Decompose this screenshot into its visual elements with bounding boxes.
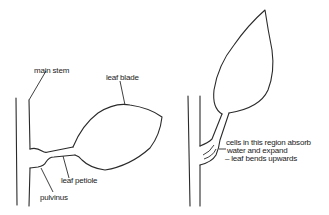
right-leaf-blade-outline [214, 10, 273, 114]
main-stem-inner-edge-bottom [29, 168, 30, 206]
diagram-canvas [0, 0, 329, 215]
leaf-petiole-leader-line [63, 156, 69, 178]
left-plant-drawing [16, 71, 162, 206]
right-petiole-upper-edge [200, 114, 222, 146]
right-plant-drawing [188, 10, 273, 206]
right-main-stem-outer-edge [188, 96, 190, 206]
pulvinus-expansion-line-1 [203, 145, 214, 155]
main-stem-outer-edge [16, 98, 17, 205]
annotation-line-3: – leaf bends upwards [225, 154, 297, 163]
leaf-blade-leader-line [120, 81, 125, 105]
petiole-upper-outline [30, 147, 73, 152]
pulvinus-leader-line [41, 168, 53, 192]
leaf-blade-outline [73, 104, 162, 170]
label-main-stem: main stem [34, 66, 69, 75]
petiole-lower-outline [30, 155, 75, 168]
main-stem-leader-line [29, 71, 46, 100]
label-leaf-petiole: leaf petiole [61, 176, 97, 185]
main-stem-inner-edge-top [29, 100, 30, 149]
label-leaf-blade: leaf blade [106, 73, 139, 82]
label-pulvinus: pulvinus [40, 193, 68, 202]
